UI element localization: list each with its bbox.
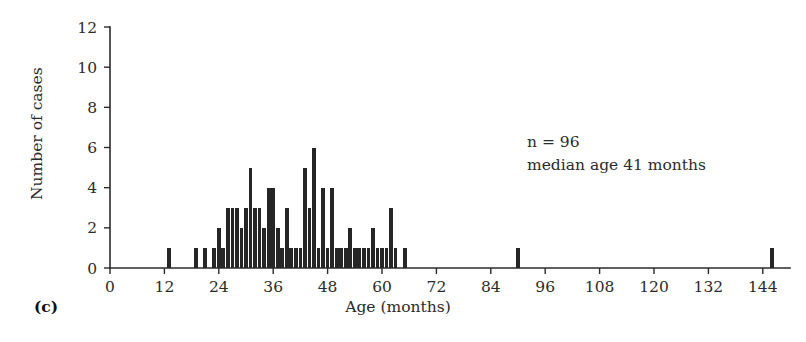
y-tick-label: 0 xyxy=(87,260,97,278)
x-tick-label: 36 xyxy=(263,278,283,296)
y-axis-title: Number of cases xyxy=(28,67,46,200)
histogram-bar xyxy=(253,208,257,268)
histogram-bar xyxy=(335,248,339,268)
histogram-bar xyxy=(339,248,343,268)
histogram-bar xyxy=(271,188,275,268)
y-tick-label: 4 xyxy=(87,179,97,197)
histogram-bar xyxy=(362,248,366,268)
histogram-bar xyxy=(371,228,375,268)
x-tick-label: 108 xyxy=(585,278,615,296)
histogram-bar xyxy=(394,248,398,268)
histogram-bar xyxy=(326,248,330,268)
histogram-bar xyxy=(321,188,325,268)
histogram-bar xyxy=(262,228,266,268)
histogram-bar xyxy=(376,248,380,268)
histogram-bar xyxy=(289,248,293,268)
panel-label: (c) xyxy=(34,297,58,316)
histogram-bar xyxy=(194,248,198,268)
histogram-bar xyxy=(203,248,207,268)
histogram-bar xyxy=(240,228,244,268)
x-tick-label: 144 xyxy=(748,278,778,296)
x-tick-label: 72 xyxy=(427,278,447,296)
x-tick-label: 60 xyxy=(372,278,392,296)
histogram-bar xyxy=(317,248,321,268)
y-tick-label: 10 xyxy=(77,59,97,77)
histogram-bar xyxy=(344,248,348,268)
histogram-chart: 024681012 01224364860728496108120132144 … xyxy=(0,0,806,342)
histogram-bar xyxy=(221,248,225,268)
histogram-bar xyxy=(285,208,289,268)
histogram-bar xyxy=(226,208,230,268)
histogram-bar xyxy=(167,248,171,268)
histogram-bar xyxy=(348,228,352,268)
histogram-bar xyxy=(367,248,371,268)
annotation-sample-size: n = 96 xyxy=(527,133,580,151)
histogram-bar xyxy=(330,188,334,268)
histogram-bar xyxy=(516,248,520,268)
histogram-bar xyxy=(312,148,316,269)
histogram-bar xyxy=(217,228,221,268)
histogram-bar xyxy=(212,248,216,268)
histogram-bar xyxy=(280,248,284,268)
histogram-bar xyxy=(267,188,271,268)
histogram-bar xyxy=(385,248,389,268)
annotation-median-age: median age 41 months xyxy=(527,156,706,174)
histogram-bar xyxy=(389,208,393,268)
histogram-bar xyxy=(294,248,298,268)
histogram-bar xyxy=(308,208,312,268)
histogram-bar xyxy=(303,168,307,268)
x-tick-label: 24 xyxy=(209,278,229,296)
y-axis-ticks: 024681012 xyxy=(77,19,110,278)
x-axis-ticks: 01224364860728496108120132144 xyxy=(105,268,778,296)
histogram-bar xyxy=(353,248,357,268)
x-tick-label: 96 xyxy=(535,278,555,296)
histogram-bar xyxy=(235,208,239,268)
histogram-bar xyxy=(276,228,280,268)
y-tick-label: 8 xyxy=(87,99,97,117)
histogram-bar xyxy=(249,168,253,268)
histogram-bar xyxy=(258,208,262,268)
histogram-bar xyxy=(380,248,384,268)
histogram-bar xyxy=(299,248,303,268)
x-tick-label: 12 xyxy=(155,278,175,296)
histogram-bar xyxy=(357,248,361,268)
histogram-bar xyxy=(244,208,248,268)
histogram-bar xyxy=(770,248,774,268)
histogram-bar xyxy=(231,208,235,268)
x-axis-title: Age (months) xyxy=(344,298,451,316)
x-tick-label: 48 xyxy=(318,278,338,296)
x-tick-label: 132 xyxy=(694,278,724,296)
y-tick-label: 12 xyxy=(77,19,97,37)
x-tick-label: 84 xyxy=(481,278,501,296)
x-tick-label: 120 xyxy=(639,278,669,296)
y-tick-label: 2 xyxy=(87,219,97,237)
histogram-bar xyxy=(403,248,407,268)
figure-panel-c: 024681012 01224364860728496108120132144 … xyxy=(0,0,806,342)
y-tick-label: 6 xyxy=(87,139,97,157)
x-tick-label: 0 xyxy=(105,278,115,296)
